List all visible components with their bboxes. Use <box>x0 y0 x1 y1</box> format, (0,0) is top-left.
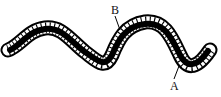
label-b: B <box>111 4 119 16</box>
label-a: A <box>170 80 179 92</box>
